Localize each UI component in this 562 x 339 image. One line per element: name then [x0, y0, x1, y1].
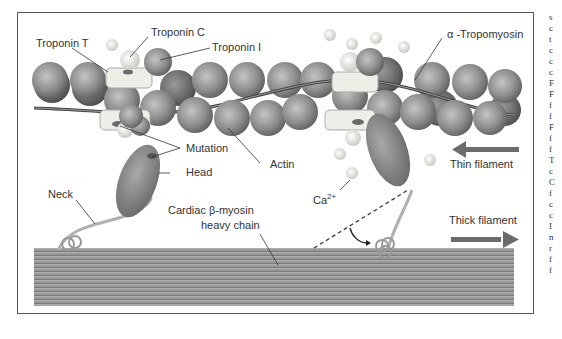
- calcium-symbol: Ca: [313, 194, 327, 206]
- thin-filament-arrow: [452, 141, 519, 158]
- label-head: Head: [186, 166, 212, 178]
- edge-text-fragment: s: [549, 12, 562, 23]
- label-thick-filament: Thick filament: [449, 214, 517, 226]
- label-heavy-chain-line2: heavy chain: [201, 219, 260, 231]
- edge-text-fragment: c: [549, 166, 562, 177]
- edge-text-fragment: f: [549, 100, 562, 111]
- edge-text-fragment: f: [549, 188, 562, 199]
- edge-text-fragment: r: [549, 243, 562, 254]
- label-mutation: Mutation: [186, 142, 228, 154]
- edge-text-fragment: f: [549, 111, 562, 122]
- edge-text-fragment: F: [549, 122, 562, 133]
- label-alpha-tropomyosin: α -Tropomyosin: [447, 28, 523, 40]
- edge-text-fragment: f: [549, 254, 562, 265]
- edge-text-fragment: F: [549, 78, 562, 89]
- label-heavy-chain-line1: Cardiac β-myosin: [168, 204, 254, 216]
- edge-text-fragment: c: [549, 23, 562, 34]
- label-troponin-t: Troponin T: [36, 37, 89, 49]
- label-troponin-c: Troponin C: [151, 26, 205, 38]
- edge-text-fragment: C: [549, 177, 562, 188]
- myosin-head-left: [58, 139, 169, 250]
- edge-text-fragment: f: [549, 144, 562, 155]
- edge-text-fragment: c: [549, 56, 562, 67]
- edge-text-fragment: f: [549, 265, 562, 276]
- cropped-body-text: sctcccFFffFffTcCfccInrff: [549, 12, 562, 332]
- thick-filament: [34, 248, 514, 306]
- label-troponin-i: Troponin I: [212, 41, 261, 53]
- edge-text-fragment: T: [549, 155, 562, 166]
- label-thin-filament: Thin filament: [450, 158, 513, 170]
- edge-text-fragment: c: [549, 45, 562, 56]
- label-actin: Actin: [270, 158, 294, 170]
- edge-text-fragment: n: [549, 232, 562, 243]
- edge-text-fragment: t: [549, 34, 562, 45]
- label-calcium: Ca2+: [313, 192, 336, 206]
- thick-filament-arrow: [451, 231, 519, 248]
- edge-text-fragment: c: [549, 199, 562, 210]
- calcium-charge: 2+: [327, 192, 336, 201]
- edge-text-fragment: I: [549, 221, 562, 232]
- edge-text-fragment: c: [549, 210, 562, 221]
- edge-text-fragment: c: [549, 67, 562, 78]
- edge-text-fragment: F: [549, 89, 562, 100]
- label-neck: Neck: [48, 188, 73, 200]
- edge-text-fragment: f: [549, 133, 562, 144]
